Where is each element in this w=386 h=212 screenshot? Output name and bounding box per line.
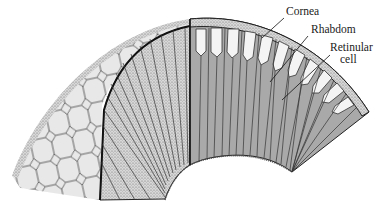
label-retinular: Retinular bbox=[330, 42, 373, 53]
label-retinular-cell: cell bbox=[340, 54, 357, 65]
label-rhabdom: Rhabdom bbox=[311, 24, 356, 35]
label-cornea: Cornea bbox=[286, 6, 319, 17]
